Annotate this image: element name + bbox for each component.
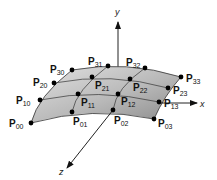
control-point-p00 — [29, 121, 34, 126]
control-point-p23 — [166, 86, 171, 91]
label-p20: P20 — [33, 77, 48, 89]
control-point-p10 — [38, 98, 43, 103]
control-point-p31 — [106, 64, 111, 69]
label-p33: P33 — [186, 73, 201, 85]
label-p10: P10 — [16, 95, 31, 107]
control-point-p22 — [128, 77, 133, 82]
control-point-p30 — [70, 68, 75, 73]
control-point-p12 — [116, 92, 121, 97]
control-point-p11 — [76, 92, 81, 97]
label-p30: P30 — [50, 64, 65, 76]
control-point-p32 — [143, 66, 148, 71]
label-p02: P02 — [114, 115, 129, 127]
axis-label-y: y — [114, 7, 120, 17]
control-point-p01 — [70, 110, 75, 115]
control-point-p02 — [111, 108, 116, 113]
label-p00: P00 — [9, 118, 24, 130]
control-point-p20 — [52, 81, 57, 86]
axis-label-x: x — [199, 99, 205, 109]
label-p23: P23 — [173, 85, 188, 97]
control-point-p33 — [179, 75, 184, 80]
label-p03: P03 — [158, 118, 173, 130]
control-point-p13 — [157, 100, 162, 105]
bezier-surface-diagram: y x z P00 P01 P02 P03 P10 P11 P12 P13 P2… — [0, 0, 217, 180]
label-p31: P31 — [88, 56, 103, 68]
label-p13: P13 — [164, 98, 179, 110]
control-point-p21 — [90, 75, 95, 80]
label-p32: P32 — [126, 57, 141, 69]
label-p01: P01 — [73, 116, 88, 128]
control-point-p03 — [152, 117, 157, 122]
axis-label-z: z — [58, 167, 64, 177]
